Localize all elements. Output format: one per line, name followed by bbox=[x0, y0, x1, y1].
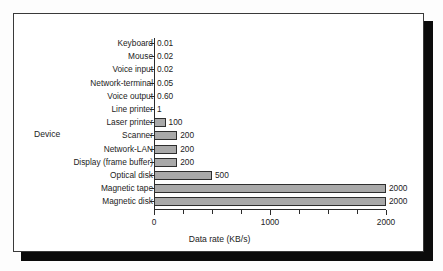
bar-value-label: 0.02 bbox=[157, 50, 173, 63]
category-label: Keyboard bbox=[117, 37, 153, 50]
y-axis-tick bbox=[150, 56, 154, 57]
bar-value-label: 0.60 bbox=[157, 90, 173, 103]
bar-row: Voice input0.02 bbox=[14, 63, 425, 76]
x-axis-tick bbox=[212, 210, 213, 214]
bar-row: Scanner200 bbox=[14, 129, 425, 142]
category-label: Laser printer bbox=[106, 116, 153, 129]
bar-value-label: 2000 bbox=[389, 195, 407, 208]
x-axis-tick bbox=[241, 210, 242, 214]
bar-row: Magnetic disk2000 bbox=[14, 195, 425, 208]
category-label: Optical disk bbox=[110, 169, 153, 182]
y-axis-tick bbox=[150, 96, 154, 97]
bar bbox=[154, 145, 177, 154]
category-label: Magnetic tape bbox=[101, 182, 153, 195]
bar-value-label: 1 bbox=[157, 103, 162, 116]
category-label: Voice input bbox=[112, 63, 153, 76]
x-axis-tick bbox=[183, 210, 184, 214]
x-axis-tick-label: 0 bbox=[152, 217, 157, 227]
y-axis-tick bbox=[150, 109, 154, 110]
figure-container: Device Keyboard0.01Mouse0.02Voice input0… bbox=[0, 0, 443, 271]
x-axis-tick bbox=[328, 210, 329, 214]
y-axis-tick bbox=[150, 83, 154, 84]
y-axis-tick bbox=[150, 69, 154, 70]
y-axis-tick bbox=[150, 43, 154, 44]
bar-value-label: 100 bbox=[169, 116, 183, 129]
x-axis-tick bbox=[386, 210, 387, 215]
category-label: Line printer bbox=[111, 103, 153, 116]
bar-row: Network-terminal0.05 bbox=[14, 77, 425, 90]
bar bbox=[154, 131, 177, 140]
x-axis-tick bbox=[154, 210, 155, 215]
bar-value-label: 0.05 bbox=[157, 77, 173, 90]
bar bbox=[154, 184, 386, 193]
bar-row: Mouse0.02 bbox=[14, 50, 425, 63]
x-axis-tick bbox=[357, 210, 358, 214]
x-axis-label: Data rate (KB/s) bbox=[14, 234, 425, 244]
x-axis-tick bbox=[299, 210, 300, 214]
bar-row: Network-LAN200 bbox=[14, 143, 425, 156]
category-label: Scanner bbox=[122, 129, 153, 142]
figure-frame: Device Keyboard0.01Mouse0.02Voice input0… bbox=[13, 13, 424, 252]
bar bbox=[154, 171, 212, 180]
bar-chart: Device Keyboard0.01Mouse0.02Voice input0… bbox=[14, 14, 425, 253]
category-label: Display (frame buffer) bbox=[73, 156, 153, 169]
category-label: Voice output bbox=[107, 90, 153, 103]
bar-row: Optical disk500 bbox=[14, 169, 425, 182]
bar-value-label: 200 bbox=[180, 129, 194, 142]
bar-row: Keyboard0.01 bbox=[14, 37, 425, 50]
bar-row: Line printer1 bbox=[14, 103, 425, 116]
bar-row: Laser printer100 bbox=[14, 116, 425, 129]
bar bbox=[154, 158, 177, 167]
category-label: Network-LAN bbox=[104, 143, 153, 156]
category-label: Magnetic disk bbox=[102, 195, 153, 208]
bar-row: Voice output0.60 bbox=[14, 90, 425, 103]
bar-value-label: 0.02 bbox=[157, 63, 173, 76]
bar-value-label: 500 bbox=[215, 169, 229, 182]
bar bbox=[154, 197, 386, 206]
bar bbox=[154, 118, 166, 127]
bar-value-label: 200 bbox=[180, 156, 194, 169]
bar-value-label: 200 bbox=[180, 143, 194, 156]
x-axis-tick-label: 2000 bbox=[377, 217, 395, 227]
bar-value-label: 2000 bbox=[389, 182, 407, 195]
bar-value-label: 0.01 bbox=[157, 37, 173, 50]
category-label: Network-terminal bbox=[90, 77, 153, 90]
bar-row: Display (frame buffer)200 bbox=[14, 156, 425, 169]
x-axis-tick-label: 1000 bbox=[261, 217, 279, 227]
x-axis-tick bbox=[270, 210, 271, 215]
bar-row: Magnetic tape2000 bbox=[14, 182, 425, 195]
